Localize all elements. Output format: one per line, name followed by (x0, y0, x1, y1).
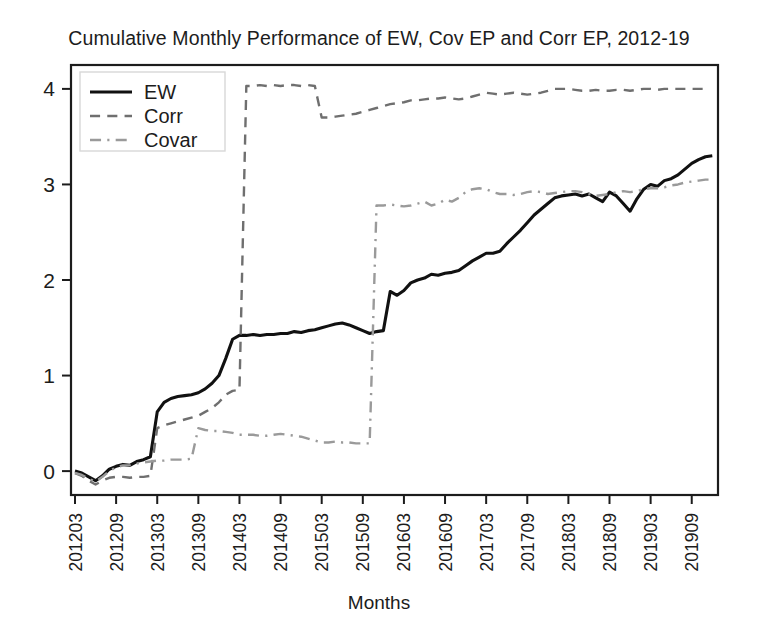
y-tick-label: 4 (43, 77, 55, 100)
chart-figure: Cumulative Monthly Performance of EW, Co… (0, 0, 758, 633)
x-tick-label: 201303 (148, 513, 168, 571)
x-tick-label: 201603 (394, 513, 414, 571)
x-tick-label: 201703 (477, 513, 497, 571)
x-tick-label: 201403 (230, 513, 250, 571)
x-tick-label: 201309 (189, 513, 209, 571)
y-axis: 01234 (43, 77, 71, 482)
x-tick-label: 201509 (353, 513, 373, 571)
x-tick-label: 201503 (312, 513, 332, 571)
chart-legend[interactable]: EWCorrCovar (80, 72, 225, 151)
x-tick-label: 201203 (66, 513, 86, 571)
series-line-covar (75, 180, 712, 482)
x-tick-label: 201609 (436, 513, 456, 571)
legend-label-corr[interactable]: Corr (144, 105, 183, 127)
x-tick-label: 201809 (600, 513, 620, 571)
legend-label-ew[interactable]: EW (144, 81, 176, 103)
x-tick-label: 201903 (641, 513, 661, 571)
legend-label-covar[interactable]: Covar (144, 129, 198, 151)
x-tick-label: 201709 (518, 513, 538, 571)
x-axis-label: Months (0, 592, 758, 614)
x-tick-label: 201909 (682, 513, 702, 571)
x-tick-label: 201209 (107, 513, 127, 571)
y-tick-label: 3 (43, 173, 55, 196)
y-tick-label: 2 (43, 269, 55, 292)
x-axis: 2012032012092013032013092014032014092015… (66, 495, 703, 571)
plot-area: 01234 2012032012092013032013092014032014… (0, 0, 758, 633)
x-tick-label: 201803 (559, 513, 579, 571)
y-tick-label: 1 (43, 364, 55, 387)
y-tick-label: 0 (43, 460, 55, 483)
x-tick-label: 201409 (271, 513, 291, 571)
